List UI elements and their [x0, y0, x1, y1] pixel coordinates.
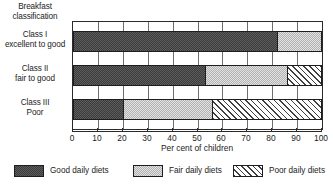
- chart-legend: Good daily diets Fair daily diets Poor d…: [0, 162, 333, 184]
- bar-segment-poor: [212, 99, 322, 120]
- category-label-class-3: Class III Poor: [0, 98, 71, 117]
- bar-segment-fair: [123, 99, 212, 120]
- legend-label-fair: Fair daily diets: [169, 166, 222, 176]
- x-tick-10: [97, 128, 98, 132]
- x-tick-label-50: 50: [186, 133, 208, 143]
- legend-swatch-fair-icon: [133, 165, 163, 177]
- legend-swatch-poor-icon: [233, 165, 263, 177]
- x-tick-70: [246, 128, 247, 132]
- x-tick-label-10: 10: [86, 133, 108, 143]
- bar-row-class-1: [73, 31, 322, 52]
- bar-segment-fair: [277, 31, 322, 52]
- x-axis-title: Per cent of children: [72, 143, 322, 153]
- category-label-line1: Class I: [0, 30, 71, 40]
- category-label-line2: Poor: [0, 108, 71, 118]
- bar-segment-good: [73, 99, 123, 120]
- x-tick-30: [147, 128, 148, 132]
- legend-item-fair: Fair daily diets: [133, 162, 222, 180]
- x-tick-20: [122, 128, 123, 132]
- bar-segment-good: [73, 65, 205, 86]
- x-tick-label-20: 20: [111, 133, 133, 143]
- legend-label-poor: Poor daily diets: [269, 166, 325, 176]
- bar-segment-poor: [287, 65, 322, 86]
- x-tick-0: [72, 128, 73, 132]
- x-tick-50: [197, 128, 198, 132]
- category-label-line1: Class II: [0, 64, 71, 74]
- plot-area: [72, 21, 323, 130]
- x-tick-60: [221, 128, 222, 132]
- y-axis-title-line1: Breakfast: [0, 2, 71, 12]
- x-tick-40: [172, 128, 173, 132]
- x-tick-label-60: 60: [210, 133, 232, 143]
- category-label-class-2: Class II fair to good: [0, 64, 71, 83]
- category-label-line2: excellent to good: [0, 40, 71, 50]
- bar-segment-fair: [205, 65, 287, 86]
- legend-item-good: Good daily diets: [14, 162, 109, 180]
- chart-container: Breakfast classification Class I excelle…: [0, 0, 333, 188]
- plot-inner: [73, 22, 322, 129]
- x-tick-label-100: 100: [310, 133, 332, 143]
- x-tick-80: [271, 128, 272, 132]
- x-tick-label-30: 30: [136, 133, 158, 143]
- category-label-line2: fair to good: [0, 74, 71, 84]
- x-tick-label-70: 70: [235, 133, 257, 143]
- y-axis-title-line2: classification: [0, 12, 71, 22]
- x-tick-label-90: 90: [285, 133, 307, 143]
- bar-row-class-3: [73, 99, 322, 120]
- x-tick-label-0: 0: [61, 133, 83, 143]
- x-tick-label-40: 40: [161, 133, 183, 143]
- x-tick-label-80: 80: [260, 133, 282, 143]
- bar-segment-good: [73, 31, 277, 52]
- y-axis-title: Breakfast classification: [0, 2, 71, 21]
- x-tick-100: [321, 128, 322, 132]
- category-label-line1: Class III: [0, 98, 71, 108]
- x-tick-90: [296, 128, 297, 132]
- category-label-class-1: Class I excellent to good: [0, 30, 71, 49]
- legend-label-good: Good daily diets: [50, 166, 109, 176]
- bar-row-class-2: [73, 65, 322, 86]
- legend-swatch-good-icon: [14, 165, 44, 177]
- legend-item-poor: Poor daily diets: [233, 162, 325, 180]
